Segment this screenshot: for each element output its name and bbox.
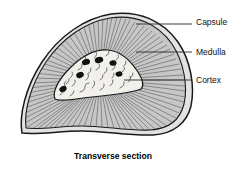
label-medulla: Medulla [196, 47, 226, 57]
labels-group: Capsule Medulla Cortex [196, 17, 227, 85]
transverse-section-figure: Capsule Medulla Cortex Transverse sectio… [0, 0, 239, 176]
anatomical-diagram: Capsule Medulla Cortex Transverse sectio… [0, 0, 239, 176]
label-cortex: Cortex [196, 75, 222, 85]
label-capsule: Capsule [196, 17, 227, 27]
figure-caption: Transverse section [74, 151, 152, 161]
